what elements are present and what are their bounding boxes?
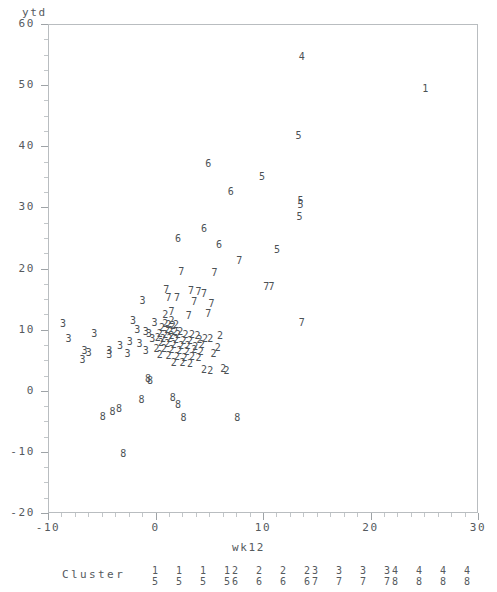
- data-point-2: 2: [171, 358, 177, 368]
- data-point-7: 7: [269, 282, 275, 292]
- y-tick-label: 30: [19, 200, 35, 213]
- legend-pair-bottom: 7: [308, 576, 322, 587]
- x-tick-minor: [303, 513, 304, 517]
- x-tick-minor: [169, 513, 170, 517]
- y-tick-minor: [44, 223, 48, 224]
- data-point-6: 6: [216, 240, 222, 250]
- legend-pair-bottom: 8: [436, 576, 450, 587]
- y-tick-label: 50: [19, 78, 35, 91]
- data-point-3: 3: [86, 348, 92, 358]
- data-point-7: 7: [174, 293, 180, 303]
- data-point-6: 6: [201, 224, 207, 234]
- x-tick-minor: [344, 513, 345, 517]
- y-tick-major: [41, 513, 48, 514]
- y-tick-major: [41, 207, 48, 208]
- legend-pair: 48: [412, 565, 426, 587]
- data-point-3: 3: [79, 355, 85, 365]
- data-point-2: 2: [207, 366, 213, 376]
- legend-pair: 37: [332, 565, 346, 587]
- x-tick-minor: [424, 513, 425, 517]
- y-tick-minor: [44, 360, 48, 361]
- x-tick-label: 30: [470, 521, 486, 534]
- x-tick-major: [48, 513, 49, 520]
- legend-pair: 37: [356, 565, 370, 587]
- legend-pair-top: 2: [276, 565, 290, 576]
- y-tick-minor: [44, 39, 48, 40]
- legend-pair-top: 4: [436, 565, 450, 576]
- y-tick-minor: [44, 100, 48, 101]
- y-tick-minor: [44, 421, 48, 422]
- data-point-7: 7: [236, 256, 242, 266]
- y-tick-major: [41, 24, 48, 25]
- data-point-7: 7: [191, 297, 197, 307]
- data-point-8: 8: [175, 400, 181, 410]
- data-point-7: 7: [299, 318, 305, 328]
- data-point-5: 5: [274, 245, 280, 255]
- y-tick-minor: [44, 192, 48, 193]
- y-tick-major: [41, 269, 48, 270]
- y-tick-major: [41, 146, 48, 147]
- data-point-8: 8: [100, 412, 106, 422]
- legend-pair-top: 1: [148, 565, 162, 576]
- x-tick-minor: [88, 513, 89, 517]
- data-point-3: 3: [136, 339, 142, 349]
- data-point-1: 1: [422, 84, 428, 94]
- legend-pair: 15: [172, 565, 186, 587]
- data-point-2: 2: [207, 334, 213, 344]
- x-tick-minor: [317, 513, 318, 517]
- x-tick-minor: [250, 513, 251, 517]
- y-tick-minor: [44, 299, 48, 300]
- x-tick-minor: [142, 513, 143, 517]
- data-point-8: 8: [109, 407, 115, 417]
- data-point-7: 7: [188, 286, 194, 296]
- y-tick-minor: [44, 406, 48, 407]
- x-tick-minor: [451, 513, 452, 517]
- legend-pair-top: 1: [196, 565, 210, 576]
- x-tick-major: [478, 513, 479, 520]
- y-tick-minor: [44, 116, 48, 117]
- data-point-3: 3: [124, 349, 130, 359]
- data-point-8: 8: [116, 404, 122, 414]
- y-tick-label: -10: [10, 445, 35, 458]
- y-tick-minor: [44, 376, 48, 377]
- data-point-7: 7: [186, 311, 192, 321]
- cluster-legend: Cluster 15151515262626263737373748484848: [0, 563, 497, 592]
- x-tick-minor: [290, 513, 291, 517]
- data-point-6: 6: [205, 159, 211, 169]
- data-point-8: 8: [147, 376, 153, 386]
- plot-frame: [48, 24, 478, 513]
- legend-pair-bottom: 5: [196, 576, 210, 587]
- data-point-3: 3: [91, 329, 97, 339]
- y-tick-label: 0: [27, 384, 35, 397]
- x-tick-minor: [411, 513, 412, 517]
- x-tick-minor: [129, 513, 130, 517]
- x-tick-label: 0: [151, 521, 159, 534]
- legend-pair: 48: [388, 565, 402, 587]
- y-tick-minor: [44, 70, 48, 71]
- data-point-4: 4: [299, 52, 305, 62]
- data-point-7: 7: [212, 268, 218, 278]
- y-tick-minor: [44, 131, 48, 132]
- x-tick-minor: [236, 513, 237, 517]
- y-tick-label: 60: [19, 17, 35, 30]
- legend-pair-bottom: 7: [332, 576, 346, 587]
- y-tick-minor: [44, 238, 48, 239]
- data-point-8: 8: [180, 413, 186, 423]
- y-tick-minor: [44, 314, 48, 315]
- x-tick-major: [263, 513, 264, 520]
- legend-pair: 26: [276, 565, 290, 587]
- x-tick-minor: [115, 513, 116, 517]
- data-point-3: 3: [134, 325, 140, 335]
- x-tick-minor: [61, 513, 62, 517]
- data-point-2: 2: [201, 365, 207, 375]
- legend-pair-top: 4: [412, 565, 426, 576]
- data-point-3: 3: [117, 341, 123, 351]
- legend-pair-bottom: 8: [460, 576, 474, 587]
- legend-pair: 48: [460, 565, 474, 587]
- x-tick-major: [156, 513, 157, 520]
- x-tick-minor: [75, 513, 76, 517]
- data-point-7: 7: [201, 289, 207, 299]
- legend-pair-top: 4: [460, 565, 474, 576]
- legend-pair: 15: [148, 565, 162, 587]
- y-tick-minor: [44, 345, 48, 346]
